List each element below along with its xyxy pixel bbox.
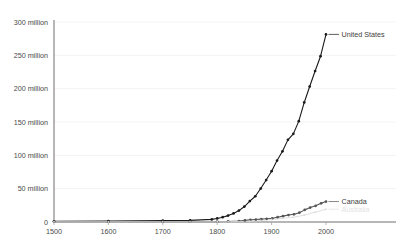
data-point-marker [314, 211, 316, 213]
data-point-marker [325, 200, 328, 203]
series-markers [53, 33, 328, 223]
data-point-marker [244, 219, 247, 222]
y-axis-tick-label: 0 [44, 218, 48, 227]
y-axis-tick-label: 100 million [14, 151, 48, 160]
x-axis-tick-label: 1900 [264, 227, 280, 236]
data-point-marker [325, 33, 328, 36]
data-point-marker [320, 202, 323, 205]
data-point-marker [287, 139, 290, 142]
data-point-marker [281, 150, 284, 153]
series-label-united-states: United States [342, 30, 386, 39]
data-point-marker [297, 120, 300, 123]
data-point-marker [53, 221, 55, 223]
data-point-marker [216, 221, 218, 223]
data-point-marker [282, 217, 284, 219]
data-point-marker [260, 220, 262, 222]
data-point-marker [238, 209, 241, 212]
x-axis-tick-label: 1600 [100, 227, 116, 236]
population-line-chart: 050 million100 million150 million200 mil… [0, 0, 400, 245]
data-point-marker [108, 221, 110, 223]
data-point-marker [308, 85, 311, 88]
data-point-marker [309, 206, 312, 209]
data-point-marker [243, 205, 246, 208]
data-point-marker [287, 214, 290, 217]
x-axis-tick-label: 1800 [209, 227, 225, 236]
y-axis-tick-label: 50 million [18, 184, 48, 193]
data-point-marker [265, 217, 268, 220]
series-line-1 [54, 34, 326, 221]
series-line-2 [54, 202, 326, 222]
gridlines [54, 22, 396, 189]
data-point-marker [276, 159, 279, 162]
data-point-marker [271, 219, 273, 221]
axes [54, 20, 396, 222]
data-point-marker [221, 216, 224, 219]
data-point-marker [303, 209, 306, 212]
series-lines [54, 34, 326, 221]
data-point-marker [265, 179, 268, 182]
chart-canvas: 050 million100 million150 million200 mil… [0, 0, 400, 245]
data-point-marker [314, 204, 317, 207]
y-axis-tick-label: 150 million [14, 118, 48, 127]
data-point-marker [293, 213, 296, 216]
data-point-marker [292, 133, 295, 136]
data-point-marker [270, 170, 273, 173]
data-point-marker [189, 221, 191, 223]
data-point-marker [325, 208, 327, 210]
data-point-marker [282, 215, 285, 218]
data-point-marker [276, 216, 279, 219]
x-axis-tick-labels: 150016001700180019002000 [46, 227, 334, 236]
x-axis-tick-label: 2000 [318, 227, 334, 236]
data-point-marker [162, 221, 164, 223]
data-point-marker [232, 212, 235, 215]
y-axis-tick-label: 200 million [14, 84, 48, 93]
x-axis-tick-label: 1700 [155, 227, 171, 236]
y-axis-tick-label: 250 million [14, 51, 48, 60]
data-point-marker [216, 217, 219, 220]
series-label-third-series: Australia [342, 205, 370, 214]
data-point-marker [319, 55, 322, 58]
data-point-marker [292, 216, 294, 218]
y-axis-tick-labels: 050 million100 million150 million200 mil… [14, 18, 48, 227]
data-point-marker [259, 187, 262, 190]
data-point-marker [254, 218, 257, 221]
data-point-marker [227, 221, 229, 223]
y-axis-tick-label: 300 million [14, 18, 48, 27]
data-point-marker [248, 200, 251, 203]
data-point-marker [238, 221, 240, 223]
data-point-marker [314, 70, 317, 73]
data-point-marker [303, 101, 306, 104]
data-point-marker [298, 211, 301, 214]
data-point-marker [227, 214, 230, 217]
data-point-marker [249, 220, 251, 222]
data-point-marker [210, 218, 213, 221]
data-point-marker [303, 214, 305, 216]
data-point-marker [254, 195, 257, 198]
x-axis-tick-label: 1500 [46, 227, 62, 236]
